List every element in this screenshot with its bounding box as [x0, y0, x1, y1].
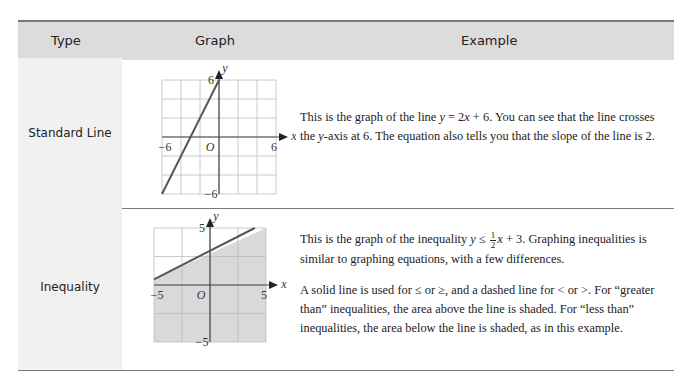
- table-header: Type Graph Example: [18, 20, 674, 60]
- x-min-label: −6: [159, 140, 172, 154]
- example-text: This is the graph of the line y = 2x + 6…: [300, 108, 670, 146]
- origin-label: O: [197, 288, 206, 302]
- y-min-label: −5: [196, 335, 209, 349]
- type-label: Inequality: [18, 280, 122, 294]
- table-row-inequality: Inequality xyO−55−55 This is the graph o…: [18, 208, 674, 371]
- example-paragraph: This is the graph of the line y = 2x + 6…: [300, 108, 670, 146]
- y-min-label: −6: [205, 187, 218, 201]
- header-type: Type: [51, 33, 81, 48]
- origin-label: O: [206, 140, 215, 154]
- graph-inequality: xyO−55−55: [126, 208, 296, 370]
- y-max-label: 5: [199, 221, 205, 235]
- type-cell: Inequality: [18, 208, 122, 370]
- x-max-label: 5: [261, 288, 267, 302]
- x-min-label: −5: [151, 288, 164, 302]
- x-max-label: 6: [271, 140, 277, 154]
- table-row-standard-line: Standard Line xyO−66−66 This is the grap…: [18, 58, 674, 209]
- graph-standard-line: xyO−66−66: [126, 58, 296, 208]
- x-axis-arrow-icon: [279, 133, 288, 141]
- x-axis-arrow-icon: [269, 281, 278, 289]
- y-axis-label: y: [212, 209, 219, 223]
- example-text: This is the graph of the inequality y ≤ …: [300, 230, 670, 338]
- example-paragraph-1: This is the graph of the inequality y ≤ …: [300, 230, 670, 269]
- y-axis-label: y: [221, 61, 228, 75]
- type-cell: Standard Line: [18, 58, 122, 208]
- header-example: Example: [461, 33, 517, 48]
- header-graph: Graph: [195, 33, 235, 48]
- type-label: Standard Line: [18, 126, 122, 140]
- fraction: 12: [490, 231, 497, 250]
- x-axis-label: x: [290, 129, 296, 143]
- example-paragraph-2: A solid line is used for ≤ or ≥, and a d…: [300, 281, 670, 338]
- x-axis-label: x: [280, 277, 287, 291]
- y-max-label: 6: [208, 73, 214, 87]
